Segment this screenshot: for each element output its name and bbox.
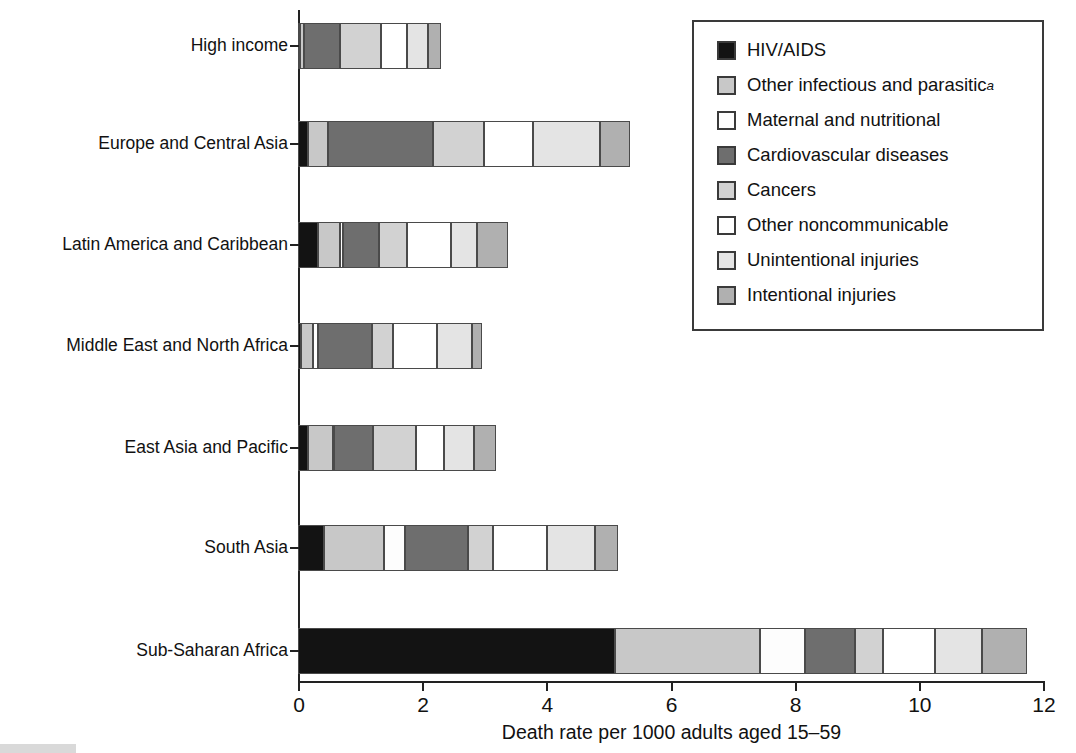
legend-item-cardiovascular-diseases[interactable]: Cardiovascular diseases [717, 143, 949, 167]
legend-swatch-icon [717, 76, 736, 95]
x-axis-tick-label: 12 [1014, 694, 1074, 715]
legend-item-intentional-injuries[interactable]: Intentional injuries [717, 283, 896, 307]
x-axis-tick [298, 681, 300, 691]
legend-label: Other noncommunicable [747, 216, 949, 235]
bar-segment-other-infectious-and-parasitic [308, 425, 333, 471]
legend-label: Intentional injuries [747, 286, 896, 305]
x-axis-tick-label: 10 [890, 694, 950, 715]
bar-segment-cancers [373, 425, 416, 471]
category-label-high-income: High income [8, 37, 288, 55]
bar-segment-hiv-aids [298, 425, 308, 471]
legend-label: Unintentional injuries [747, 251, 919, 270]
bar-segment-intentional-injuries [428, 23, 441, 69]
bar-segment-other-noncommunicable [381, 23, 408, 69]
bar-segment-other-noncommunicable [883, 628, 935, 674]
legend-item-cancers[interactable]: Cancers [717, 178, 816, 202]
bar-segment-cardiovascular-diseases [304, 23, 340, 69]
y-axis-tick [290, 45, 299, 47]
category-label-europe-and-central-asia: Europe and Central Asia [8, 135, 288, 153]
bar-segment-hiv-aids [298, 121, 308, 167]
bar-segment-maternal-and-nutritional [384, 525, 404, 571]
bar-segment-cardiovascular-diseases [334, 425, 373, 471]
x-axis-tick-label: 0 [269, 694, 329, 715]
category-label-east-asia-and-pacific: East Asia and Pacific [8, 439, 288, 457]
legend-swatch-icon [717, 146, 736, 165]
bar-segment-unintentional-injuries [533, 121, 601, 167]
bar-segment-intentional-injuries [595, 525, 618, 571]
x-axis-tick-label: 6 [642, 694, 702, 715]
category-label-middle-east-and-north-africa: Middle East and North Africa [8, 337, 288, 355]
x-axis-tick [795, 681, 797, 691]
x-axis-tick [546, 681, 548, 691]
bar-segment-cardiovascular-diseases [805, 628, 855, 674]
y-axis-tick [290, 547, 299, 549]
bar-segment-cancers [340, 23, 380, 69]
legend-label: Cancers [747, 181, 816, 200]
bar-segment-other-infectious-and-parasitic [308, 121, 328, 167]
bar-segment-other-infectious-and-parasitic [318, 222, 340, 268]
y-axis-tick [290, 143, 299, 145]
stacked-bar-chart-figure: High incomeEurope and Central AsiaLatin … [0, 0, 1076, 753]
bar-segment-cardiovascular-diseases [318, 323, 372, 369]
bar-segment-other-noncommunicable [416, 425, 444, 471]
bar-segment-cardiovascular-diseases [328, 121, 433, 167]
category-label-latin-america-and-caribbean: Latin America and Caribbean [8, 236, 288, 254]
bar-segment-unintentional-injuries [935, 628, 982, 674]
legend-swatch-icon [717, 111, 736, 130]
page-edge-artifact [0, 744, 76, 753]
legend-item-maternal-and-nutritional[interactable]: Maternal and nutritional [717, 108, 940, 132]
bar-segment-other-noncommunicable [484, 121, 533, 167]
legend-swatch-icon [717, 216, 736, 235]
bar-segment-cancers [468, 525, 493, 571]
legend-footnote-marker: a [987, 78, 995, 93]
bar-segment-intentional-injuries [982, 628, 1028, 674]
x-axis-tick [1043, 681, 1045, 691]
category-axis-labels: High incomeEurope and Central AsiaLatin … [0, 10, 288, 682]
legend-swatch-icon [717, 41, 736, 60]
y-axis-tick [290, 650, 299, 652]
bar-segment-intentional-injuries [472, 323, 482, 369]
legend-label: Cardiovascular diseases [747, 146, 949, 165]
bar-segment-other-infectious-and-parasitic [615, 628, 760, 674]
x-axis-title: Death rate per 1000 adults aged 15–59 [298, 723, 1045, 743]
bar-segment-unintentional-injuries [451, 222, 478, 268]
legend-label: HIV/AIDS [747, 41, 826, 60]
x-axis-tick-label: 8 [766, 694, 826, 715]
legend-item-hiv-aids[interactable]: HIV/AIDS [717, 38, 826, 62]
bar-segment-hiv-aids [298, 628, 615, 674]
legend-item-other-noncommunicable[interactable]: Other noncommunicable [717, 213, 949, 237]
legend-item-other-infectious-and-parasitic[interactable]: Other infectious and parasitica [717, 73, 994, 97]
bar-segment-unintentional-injuries [444, 425, 474, 471]
legend-label: Maternal and nutritional [747, 111, 940, 130]
x-axis-tick [919, 681, 921, 691]
chart-legend: HIV/AIDSOther infectious and parasiticaM… [692, 20, 1044, 331]
category-label-sub-saharan-africa: Sub-Saharan Africa [8, 642, 288, 660]
legend-swatch-icon [717, 251, 736, 270]
legend-swatch-icon [717, 181, 736, 200]
bar-segment-intentional-injuries [600, 121, 630, 167]
bar-segment-other-infectious-and-parasitic [324, 525, 384, 571]
bar-segment-hiv-aids [298, 222, 318, 268]
y-axis-tick [290, 244, 299, 246]
bar-segment-cardiovascular-diseases [405, 525, 468, 571]
bar-segment-unintentional-injuries [407, 23, 427, 69]
legend-swatch-icon [717, 286, 736, 305]
x-axis-tick-label: 4 [517, 694, 577, 715]
bar-segment-cancers [379, 222, 408, 268]
x-axis-tick [422, 681, 424, 691]
bar-segment-unintentional-injuries [547, 525, 595, 571]
category-label-south-asia: South Asia [8, 539, 288, 557]
bar-segment-cardiovascular-diseases [343, 222, 378, 268]
bar-segment-cancers [855, 628, 883, 674]
bar-segment-hiv-aids [298, 525, 324, 571]
bar-segment-intentional-injuries [474, 425, 496, 471]
x-axis-tick [671, 681, 673, 691]
bar-segment-cancers [372, 323, 393, 369]
bar-segment-intentional-injuries [477, 222, 508, 268]
y-axis-tick [290, 345, 299, 347]
bar-segment-other-noncommunicable [493, 525, 547, 571]
legend-item-unintentional-injuries[interactable]: Unintentional injuries [717, 248, 919, 272]
y-axis-tick [290, 447, 299, 449]
bar-segment-cancers [433, 121, 483, 167]
bar-segment-other-noncommunicable [407, 222, 450, 268]
